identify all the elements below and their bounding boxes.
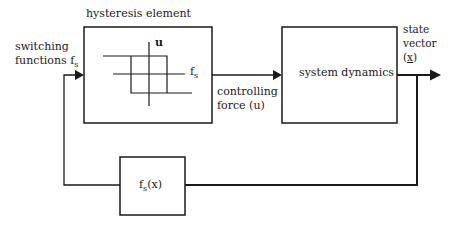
state-vector-arrowhead (430, 70, 441, 81)
system-dynamics-label: system dynamics (299, 66, 394, 80)
controlling-force-line1: controlling (217, 85, 278, 99)
state-vector-line2: vector (403, 36, 437, 50)
feedback-function-label: fs(x) (139, 178, 162, 193)
switching-functions-main: functions f (15, 54, 74, 67)
switching-functions-line2: functions fs (15, 54, 78, 69)
state-vector-label: state vector (x) (403, 22, 437, 64)
switching-functions-line1: switching (15, 40, 78, 54)
switching-functions-sub: s (74, 60, 78, 69)
feedback-f-arg: (x) (147, 178, 162, 191)
controlling-force-line2: force (u) (217, 99, 278, 113)
hysteresis-fs-sub: s (194, 71, 198, 80)
hysteresis-element-title: hysteresis element (86, 7, 191, 21)
state-vector-line1: state (403, 22, 437, 36)
control-force-arrowhead (273, 70, 282, 80)
hysteresis-fs-label: fs (190, 65, 198, 80)
switching-functions-label: switching functions fs (15, 40, 78, 69)
feedback-f-sub: s (143, 184, 147, 193)
hysteresis-u-label: u (155, 36, 163, 50)
diagram-canvas (0, 0, 455, 230)
state-vector-line3: (x) (403, 50, 437, 64)
switching-function-arrowhead (75, 70, 84, 80)
controlling-force-label: controlling force (u) (217, 85, 278, 113)
feedback-path-left (64, 75, 120, 185)
state-vector-paren-close: ) (413, 51, 417, 63)
